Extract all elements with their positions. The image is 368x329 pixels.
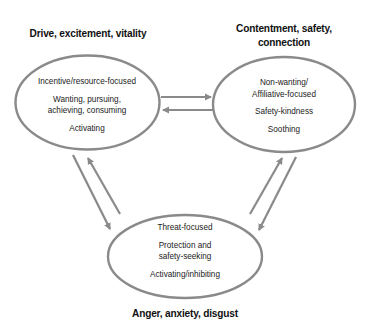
drive-effect: Activating: [27, 122, 147, 134]
threat-system-text: Threat-focused Protection and safety-see…: [121, 221, 250, 279]
threat-behaviours-line-1: Protection and: [121, 239, 250, 251]
threat-focus-line: Threat-focused: [121, 221, 250, 233]
drive-system-heading: Drive, excitement, vitality: [11, 26, 166, 40]
soothing-focus-line-2: Affiliative-focused: [224, 88, 344, 100]
drive-behaviours-line-2: achieving, consuming: [27, 104, 147, 116]
threat-behaviours-line-2: safety-seeking: [121, 250, 250, 262]
diagram-graphics: [0, 0, 368, 329]
drive-focus: Incentive/resource-focused: [27, 75, 147, 87]
soothing-quality: Safety-kindness: [224, 105, 344, 117]
three-systems-diagram: Drive, excitement, vitality Contentment,…: [0, 0, 368, 329]
soothing-system-text: Non-wanting/ Affiliative-focused Safety-…: [224, 76, 344, 134]
threat-focus: Threat-focused: [121, 221, 250, 233]
soothing-effect: Soothing: [224, 123, 344, 135]
arrow-threat-to-drive: [88, 158, 120, 214]
drive-behaviours: Wanting, pursuing, achieving, consuming: [27, 93, 147, 116]
soothing-quality-line: Safety-kindness: [224, 105, 344, 117]
drive-effect-line: Activating: [27, 122, 147, 134]
drive-behaviours-line-1: Wanting, pursuing,: [27, 93, 147, 105]
drive-system-text: Incentive/resource-focused Wanting, purs…: [27, 75, 147, 133]
drive-focus-line: Incentive/resource-focused: [27, 75, 147, 87]
threat-effect-line: Activating/inhibiting: [121, 268, 250, 280]
soothing-heading-line-1: Contentment, safety,: [214, 21, 355, 35]
soothing-focus-line-1: Non-wanting/: [224, 76, 344, 88]
soothing-effect-line: Soothing: [224, 123, 344, 135]
soothing-heading-line-2: connection: [214, 35, 355, 49]
soothing-focus: Non-wanting/ Affiliative-focused: [224, 76, 344, 99]
threat-system-heading: Anger, anxiety, disgust: [106, 306, 264, 320]
soothing-system-heading: Contentment, safety, connection: [214, 21, 355, 49]
threat-effect: Activating/inhibiting: [121, 268, 250, 280]
arrow-threat-to-soothing: [250, 158, 282, 214]
threat-behaviours: Protection and safety-seeking: [121, 239, 250, 262]
